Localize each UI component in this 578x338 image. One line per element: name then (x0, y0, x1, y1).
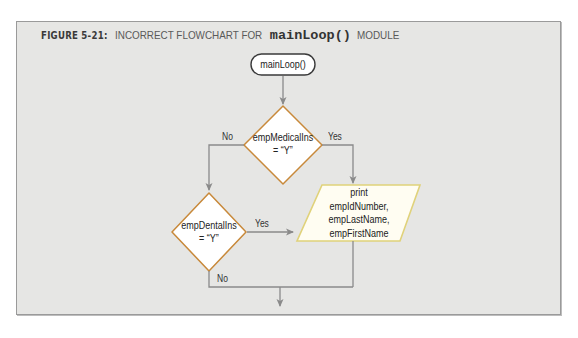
decision2-no-label: No (217, 273, 228, 284)
decision2-label: empDentalIns = “Y” (176, 219, 243, 245)
connector-decision2-no (209, 271, 353, 287)
flowchart-diagram (0, 0, 578, 338)
output-line1: print (315, 186, 403, 200)
connector-decision1-no (209, 145, 244, 190)
decision1-line1: empMedicalIns (248, 131, 318, 144)
output-label: print empIdNumber, empLastName, empFirst… (315, 186, 403, 240)
output-line2: empIdNumber, (315, 200, 403, 214)
decision1-no-label: No (222, 131, 233, 142)
decision1-label: empMedicalIns = “Y” (248, 131, 318, 157)
decision1-yes-label: Yes (328, 131, 342, 142)
decision2-line1: empDentalIns (176, 219, 243, 232)
decision2-yes-label: Yes (255, 218, 269, 229)
decision2-line2: = “Y” (176, 232, 243, 245)
decision1-line2: = “Y” (248, 144, 318, 157)
connector-decision1-yes (322, 145, 353, 183)
output-line3: empLastName, (315, 213, 403, 227)
terminal-start-label: mainLoop() (254, 58, 312, 71)
output-line4: empFirstName (315, 227, 403, 241)
